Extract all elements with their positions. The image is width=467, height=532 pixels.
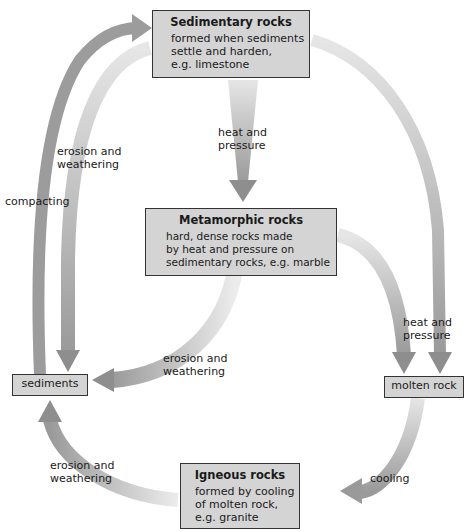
label-heat-pressure-sed-met: heat and pressure: [218, 126, 267, 152]
label-erosion-weathering-ign: erosion and weathering: [50, 459, 114, 485]
node-description: hard, dense rocks made by heat and press…: [146, 230, 336, 269]
node-metamorphic-rocks: Metamorphic rocks hard, dense rocks made…: [145, 208, 337, 276]
label-erosion-weathering-sed: erosion and weathering: [57, 145, 121, 171]
label-erosion-weathering-met: erosion and weathering: [163, 352, 227, 378]
met-to-molten-arrow: [338, 235, 416, 374]
rock-cycle-diagram: Sedimentary rocks formed when sediments …: [0, 0, 467, 532]
node-sediments: sediments: [12, 374, 88, 396]
node-title: Sedimentary rocks: [153, 15, 309, 29]
ign-erosion-arrow: [38, 400, 178, 500]
label-cooling: cooling: [370, 472, 410, 485]
sed-erosion-arrow: [56, 48, 150, 372]
node-sedimentary-rocks: Sedimentary rocks formed when sediments …: [152, 10, 310, 78]
node-igneous-rocks: Igneous rocks formed by cooling of molte…: [180, 463, 300, 529]
node-title: Metamorphic rocks: [146, 213, 336, 227]
cooling-arrow: [340, 398, 418, 504]
label-compacting: compacting: [5, 195, 70, 208]
node-description: formed when sediments settle and harden,…: [153, 32, 309, 71]
node-description: formed by cooling of molten rock, e.g. g…: [181, 485, 299, 524]
node-title: Igneous rocks: [181, 468, 299, 482]
label-heat-pressure-molten: heat and pressure: [403, 316, 452, 342]
node-molten-rock: molten rock: [384, 376, 464, 398]
